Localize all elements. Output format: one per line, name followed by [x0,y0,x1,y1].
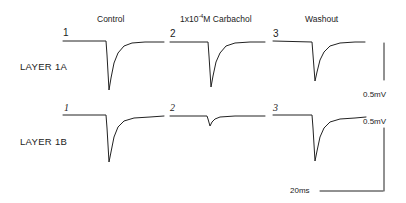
traces-plot [0,0,406,203]
trace-1a-control [63,41,164,90]
trace-1a-carbachol [170,42,265,87]
trace-1b-control [63,115,164,162]
trace-1a-washout [273,41,365,81]
trace-1b-carbachol [170,116,265,126]
trace-1b-washout [273,115,366,161]
